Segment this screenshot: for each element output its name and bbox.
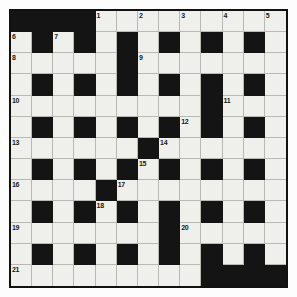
crossword-cell[interactable]: 2 (138, 11, 159, 32)
crossword-cell[interactable] (138, 223, 159, 244)
crossword-cell[interactable] (11, 74, 32, 95)
crossword-cell[interactable] (96, 117, 117, 138)
crossword-cell[interactable]: 20 (180, 223, 201, 244)
crossword-cell[interactable] (265, 138, 286, 159)
crossword-cell[interactable] (201, 223, 222, 244)
crossword-cell[interactable] (96, 265, 117, 286)
crossword-cell[interactable] (138, 265, 159, 286)
crossword-cell[interactable] (53, 138, 74, 159)
crossword-cell[interactable]: 9 (138, 53, 159, 74)
crossword-cell[interactable] (180, 96, 201, 117)
crossword-cell[interactable]: 5 (265, 11, 286, 32)
crossword-cell[interactable] (265, 74, 286, 95)
crossword-cell[interactable] (159, 265, 180, 286)
crossword-cell[interactable] (180, 265, 201, 286)
crossword-cell[interactable] (223, 223, 244, 244)
crossword-cell[interactable] (138, 201, 159, 222)
crossword-cell[interactable] (96, 53, 117, 74)
crossword-cell[interactable]: 11 (223, 96, 244, 117)
crossword-cell[interactable] (138, 180, 159, 201)
crossword-cell[interactable] (138, 117, 159, 138)
crossword-cell[interactable] (201, 11, 222, 32)
crossword-cell[interactable] (117, 223, 138, 244)
crossword-cell[interactable] (11, 244, 32, 265)
crossword-cell[interactable]: 12 (180, 117, 201, 138)
crossword-cell[interactable]: 3 (180, 11, 201, 32)
crossword-cell[interactable]: 16 (11, 180, 32, 201)
crossword-cell[interactable] (180, 138, 201, 159)
crossword-cell[interactable] (138, 74, 159, 95)
crossword-cell[interactable] (117, 96, 138, 117)
crossword-cell[interactable] (244, 180, 265, 201)
crossword-cell[interactable] (265, 117, 286, 138)
crossword-cell[interactable] (244, 138, 265, 159)
crossword-cell[interactable] (180, 180, 201, 201)
crossword-cell[interactable] (159, 53, 180, 74)
crossword-cell[interactable] (96, 32, 117, 53)
crossword-cell[interactable] (96, 159, 117, 180)
crossword-cell[interactable] (53, 265, 74, 286)
crossword-cell[interactable] (265, 32, 286, 53)
crossword-cell[interactable] (180, 201, 201, 222)
crossword-cell[interactable] (74, 223, 95, 244)
crossword-cell[interactable] (244, 96, 265, 117)
crossword-cell[interactable] (265, 244, 286, 265)
crossword-cell[interactable] (180, 159, 201, 180)
crossword-cell[interactable]: 21 (11, 265, 32, 286)
crossword-cell[interactable]: 15 (138, 159, 159, 180)
crossword-cell[interactable] (53, 117, 74, 138)
crossword-cell[interactable] (117, 11, 138, 32)
crossword-cell[interactable] (201, 180, 222, 201)
crossword-cell[interactable]: 6 (11, 32, 32, 53)
crossword-cell[interactable] (223, 53, 244, 74)
crossword-cell[interactable] (244, 223, 265, 244)
crossword-cell[interactable] (223, 159, 244, 180)
crossword-cell[interactable] (53, 223, 74, 244)
crossword-grid[interactable]: 123456789101112131415161718192021 (11, 11, 286, 286)
crossword-cell[interactable]: 7 (53, 32, 74, 53)
crossword-cell[interactable] (223, 201, 244, 222)
crossword-cell[interactable] (74, 138, 95, 159)
crossword-cell[interactable] (53, 244, 74, 265)
crossword-cell[interactable] (201, 138, 222, 159)
crossword-cell[interactable] (180, 244, 201, 265)
crossword-cell[interactable] (180, 74, 201, 95)
crossword-cell[interactable] (265, 223, 286, 244)
crossword-cell[interactable] (138, 244, 159, 265)
crossword-cell[interactable] (223, 244, 244, 265)
crossword-cell[interactable] (159, 180, 180, 201)
crossword-cell[interactable] (53, 53, 74, 74)
crossword-cell[interactable] (53, 159, 74, 180)
crossword-cell[interactable] (32, 265, 53, 286)
crossword-cell[interactable] (180, 53, 201, 74)
crossword-cell[interactable] (223, 117, 244, 138)
crossword-cell[interactable] (32, 180, 53, 201)
crossword-cell[interactable] (96, 74, 117, 95)
crossword-cell[interactable] (180, 32, 201, 53)
crossword-cell[interactable] (32, 53, 53, 74)
crossword-cell[interactable] (74, 96, 95, 117)
crossword-cell[interactable] (32, 96, 53, 117)
crossword-cell[interactable] (159, 96, 180, 117)
crossword-cell[interactable]: 8 (11, 53, 32, 74)
crossword-cell[interactable] (11, 201, 32, 222)
crossword-cell[interactable] (74, 53, 95, 74)
crossword-cell[interactable] (201, 53, 222, 74)
crossword-cell[interactable]: 14 (159, 138, 180, 159)
crossword-cell[interactable] (223, 32, 244, 53)
crossword-cell[interactable] (138, 96, 159, 117)
crossword-cell[interactable] (223, 180, 244, 201)
crossword-cell[interactable]: 4 (223, 11, 244, 32)
crossword-cell[interactable] (96, 244, 117, 265)
crossword-cell[interactable]: 19 (11, 223, 32, 244)
crossword-cell[interactable] (265, 180, 286, 201)
crossword-cell[interactable] (96, 138, 117, 159)
crossword-cell[interactable] (265, 96, 286, 117)
crossword-cell[interactable] (53, 201, 74, 222)
crossword-cell[interactable]: 17 (117, 180, 138, 201)
crossword-cell[interactable] (74, 265, 95, 286)
crossword-cell[interactable] (265, 201, 286, 222)
crossword-cell[interactable] (223, 138, 244, 159)
crossword-cell[interactable] (53, 180, 74, 201)
crossword-cell[interactable] (117, 138, 138, 159)
